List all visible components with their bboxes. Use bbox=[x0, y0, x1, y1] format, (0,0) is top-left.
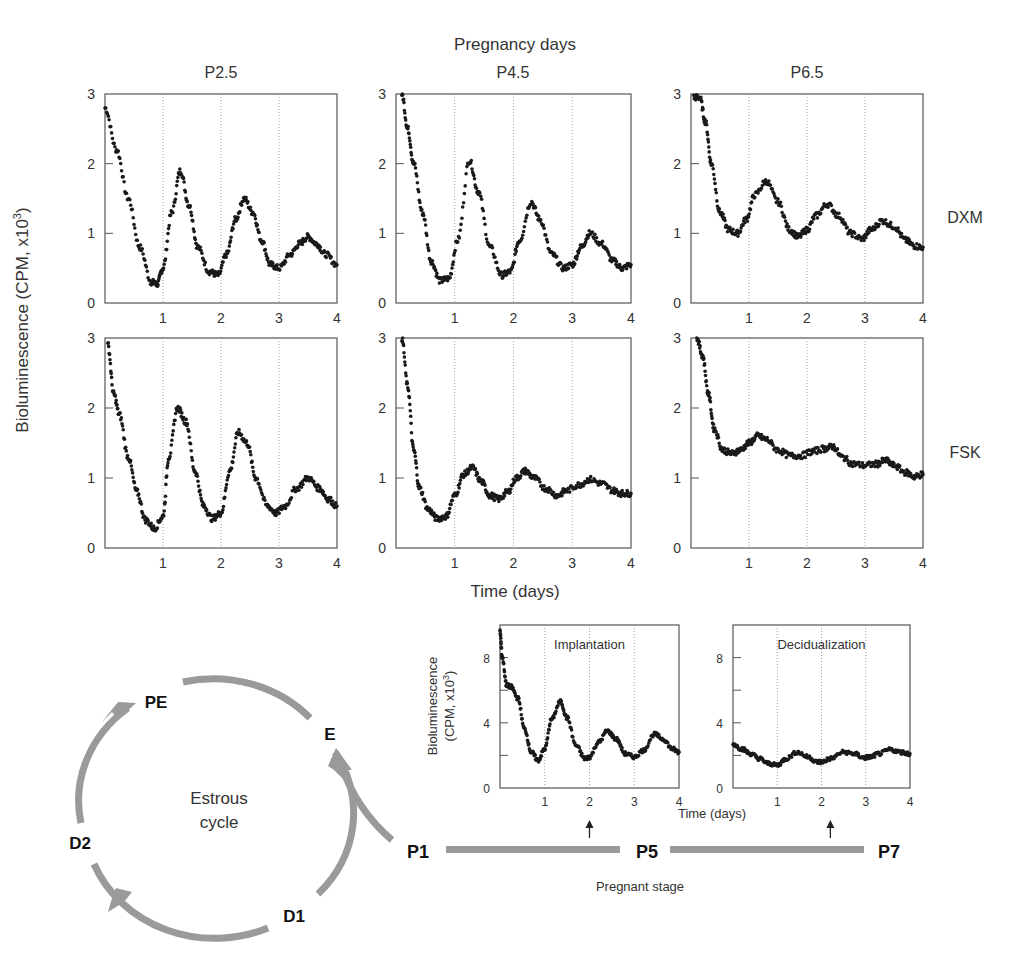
y-tick-label: 0 bbox=[378, 540, 386, 556]
x-tick-label: 3 bbox=[861, 555, 869, 571]
data-point bbox=[407, 389, 411, 393]
data-point bbox=[170, 443, 174, 447]
data-point bbox=[110, 131, 114, 135]
data-point bbox=[709, 408, 713, 412]
data-point bbox=[503, 494, 507, 498]
data-point bbox=[450, 499, 454, 503]
data-point bbox=[877, 223, 881, 227]
data-point bbox=[717, 436, 721, 440]
data-point bbox=[519, 707, 523, 711]
data-point bbox=[493, 255, 497, 259]
data-point bbox=[171, 433, 175, 437]
data-point bbox=[191, 459, 195, 463]
data-point bbox=[416, 181, 420, 185]
inset-plot-implantation: 0481234Implantation bbox=[483, 625, 682, 838]
data-point bbox=[703, 362, 707, 366]
data-point bbox=[129, 459, 133, 463]
y-tick-label: 0 bbox=[483, 782, 490, 796]
data-point bbox=[248, 445, 252, 449]
data-point bbox=[534, 206, 538, 210]
x-tick-label: 3 bbox=[631, 795, 638, 809]
data-point bbox=[166, 232, 170, 236]
data-point bbox=[698, 344, 702, 348]
data-point bbox=[402, 98, 406, 102]
data-point bbox=[517, 697, 521, 701]
data-point bbox=[297, 489, 301, 493]
data-point bbox=[836, 447, 840, 451]
data-point bbox=[845, 225, 849, 229]
data-point bbox=[290, 496, 294, 500]
y-tick-label: 0 bbox=[87, 540, 95, 556]
data-point bbox=[223, 495, 227, 499]
data-point bbox=[555, 255, 559, 259]
data-point bbox=[275, 263, 279, 267]
data-point bbox=[702, 357, 706, 361]
inset-y-axis-label-close: ) bbox=[442, 671, 457, 675]
data-point bbox=[593, 233, 597, 237]
data-point bbox=[156, 526, 160, 530]
data-point bbox=[171, 211, 175, 215]
data-point bbox=[145, 265, 149, 269]
x-tick-label: 3 bbox=[568, 310, 576, 326]
data-point bbox=[499, 637, 503, 641]
data-point bbox=[482, 217, 486, 221]
data-point bbox=[519, 474, 523, 478]
data-point bbox=[723, 219, 727, 223]
data-point bbox=[514, 250, 518, 254]
data-point bbox=[136, 488, 140, 492]
data-point bbox=[826, 206, 830, 210]
data-point bbox=[456, 240, 460, 244]
x-tick-label: 4 bbox=[627, 310, 635, 326]
data-point bbox=[119, 162, 123, 166]
data-point bbox=[418, 201, 422, 205]
data-point bbox=[704, 374, 708, 378]
data-point bbox=[415, 466, 419, 470]
data-point bbox=[537, 214, 541, 218]
y-tick-label: 8 bbox=[483, 652, 490, 666]
data-point bbox=[107, 341, 111, 345]
data-point bbox=[252, 470, 256, 474]
data-point bbox=[713, 177, 717, 181]
data-point bbox=[178, 167, 182, 171]
data-point bbox=[459, 479, 463, 483]
data-point bbox=[458, 228, 462, 232]
data-point bbox=[700, 100, 704, 104]
data-point bbox=[568, 721, 572, 725]
panel-dxm-p4-5: 01231234 bbox=[378, 86, 635, 326]
data-point bbox=[427, 249, 431, 253]
data-point bbox=[850, 235, 854, 239]
data-point bbox=[409, 421, 413, 425]
data-point bbox=[567, 716, 571, 720]
data-point bbox=[401, 336, 405, 340]
data-point bbox=[165, 474, 169, 478]
row-label-dxm: DXM bbox=[947, 209, 983, 226]
data-trace bbox=[400, 336, 633, 523]
data-point bbox=[108, 353, 112, 357]
data-point bbox=[109, 362, 113, 366]
data-point bbox=[629, 263, 633, 267]
data-point bbox=[547, 728, 551, 732]
data-point bbox=[248, 450, 252, 454]
data-point bbox=[149, 522, 153, 526]
y-tick-label: 8 bbox=[716, 652, 723, 666]
data-point bbox=[115, 403, 119, 407]
y-tick-label: 3 bbox=[673, 86, 681, 102]
data-point bbox=[172, 423, 176, 427]
data-point bbox=[204, 261, 208, 265]
data-point bbox=[513, 261, 517, 265]
y-tick-label: 3 bbox=[87, 330, 95, 346]
data-point bbox=[130, 464, 134, 468]
data-point bbox=[712, 173, 716, 177]
data-point bbox=[450, 272, 454, 276]
data-point bbox=[448, 276, 452, 280]
data-point bbox=[458, 236, 462, 240]
panel-fsk-p4-5: 01231234 bbox=[378, 330, 635, 571]
data-point bbox=[409, 146, 413, 150]
data-point bbox=[291, 252, 295, 256]
data-point bbox=[666, 741, 670, 745]
y-tick-label: 1 bbox=[673, 470, 681, 486]
data-point bbox=[199, 245, 203, 249]
data-point bbox=[233, 446, 237, 450]
data-point bbox=[552, 716, 556, 720]
data-point bbox=[124, 445, 128, 449]
